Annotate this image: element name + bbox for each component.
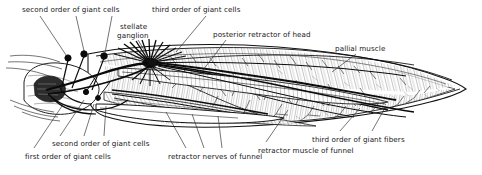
label-stellate-ganglion-line2: ganglion <box>117 32 149 41</box>
label-retractor-muscle-of-funnel: retractor muscle of funnel <box>258 147 354 156</box>
label-retractor-nerves-of-funnel: retractor nerves of funnel <box>168 153 262 162</box>
label-third-order-of-giant-fibers: third order of giant fibers <box>312 136 405 145</box>
label-pallial-muscle: pallial muscle <box>335 45 385 54</box>
anatomy-drawing <box>0 0 482 175</box>
label-second-order-of-giant-cells-top: second order of giant cells <box>22 6 119 15</box>
label-posterior-retractor-of-head: posterior retractor of head <box>213 31 311 40</box>
label-first-order-of-giant-cells: first order of giant cells <box>25 153 111 162</box>
squid-anatomy-figure <box>0 0 482 175</box>
label-third-order-of-giant-cells: third order of giant cells <box>152 6 241 15</box>
label-second-order-of-giant-cells-bottom: second order of giant cells <box>52 140 149 149</box>
